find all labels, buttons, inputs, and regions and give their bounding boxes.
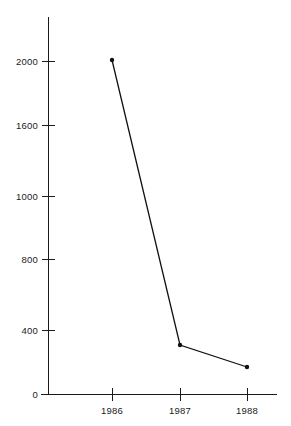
data-point-1987 — [178, 343, 182, 347]
y-axis-label-0: 0 — [0, 389, 38, 400]
x-axis-label-1987: 1987 — [169, 405, 191, 416]
data-point-1986 — [110, 58, 114, 62]
x-axis-label-1986: 1986 — [101, 405, 123, 416]
line-chart: 2000 1600 1000 800 400 0 1986 1987 1988 — [0, 0, 291, 426]
y-axis-label-1000: 1000 — [0, 191, 38, 202]
y-axis-label-2000: 2000 — [0, 56, 38, 67]
x-axis-label-1988: 1988 — [236, 405, 258, 416]
data-point-1988 — [245, 365, 249, 369]
chart-plot-area — [0, 0, 291, 426]
y-axis-label-1600: 1600 — [0, 120, 38, 131]
data-series-line — [112, 60, 247, 367]
y-axis-label-800: 800 — [0, 254, 38, 265]
y-axis-label-400: 400 — [0, 325, 38, 336]
